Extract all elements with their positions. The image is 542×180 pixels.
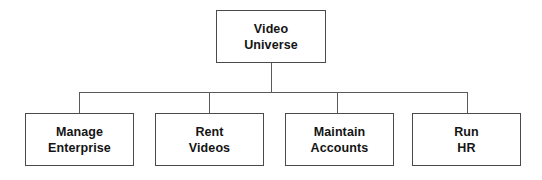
node-label-line2: Enterprise [48, 140, 111, 156]
node-label-line1: Run [454, 124, 479, 140]
node-manage-enterprise[interactable]: Manage Enterprise [25, 113, 134, 166]
connector-drop-rent-videos [209, 92, 210, 113]
connector-root-stem [271, 63, 272, 92]
node-label-line1: Maintain [314, 124, 366, 140]
node-label-line1: Manage [56, 124, 103, 140]
node-label-line2: HR [457, 140, 475, 156]
connector-drop-run-hr [467, 92, 468, 113]
node-label-line2: Videos [189, 140, 230, 156]
node-maintain-accounts[interactable]: Maintain Accounts [285, 113, 394, 166]
node-rent-videos[interactable]: Rent Videos [155, 113, 264, 166]
node-label-line2: Universe [244, 37, 298, 53]
node-run-hr[interactable]: Run HR [412, 113, 521, 166]
connector-drop-manage-enterprise [79, 92, 80, 113]
hierarchy-chart-canvas: Video Universe Manage Enterprise Rent Vi… [0, 0, 542, 180]
node-video-universe[interactable]: Video Universe [216, 10, 326, 63]
connector-drop-maintain-accounts [337, 92, 338, 113]
node-label-line2: Accounts [311, 140, 369, 156]
node-label-line1: Video [254, 21, 288, 37]
node-label-line1: Rent [195, 124, 223, 140]
connector-horizontal-bus [79, 92, 467, 93]
